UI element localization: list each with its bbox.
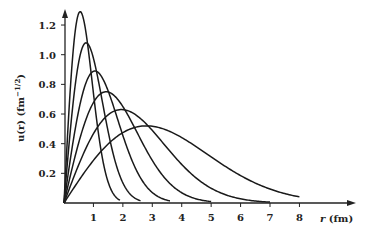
y-tick-label: 0.4 [39,139,56,150]
radial-wavefunction-chart: 12345678 0.20.40.60.81.01.2 r (fm) u(r) … [0,0,374,239]
x-tick-label: 2 [119,212,126,223]
wavefunction-curve-5 [64,110,270,203]
curves [64,12,299,203]
x-tick-label: 7 [267,212,274,223]
x-ticks: 12345678 [90,203,303,223]
x-tick-label: 1 [90,212,97,223]
y-tick-label: 0.2 [39,168,56,179]
x-tick-label: 5 [208,212,215,223]
y-tick-label: 0.6 [39,109,56,120]
y-axis-label: u(r) (fm−1/2) [13,74,26,142]
x-axis-arrow-icon [347,200,356,206]
x-tick-label: 6 [237,212,244,223]
x-tick-label: 3 [149,212,156,223]
x-tick-label: 4 [178,212,185,223]
y-tick-label: 1.2 [39,20,56,31]
x-axis-label: r (fm) [320,213,353,224]
y-axis-arrow-icon [62,9,68,18]
y-tick-label: 1.0 [39,50,56,61]
wavefunction-curve-2 [64,43,141,203]
y-ticks: 0.20.40.60.81.01.2 [39,20,65,179]
y-tick-label: 0.8 [39,79,56,90]
x-tick-label: 8 [296,212,303,223]
